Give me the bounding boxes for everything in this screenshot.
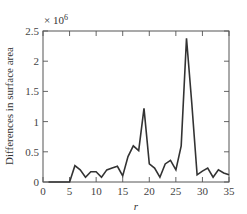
x-tick-label: 0 — [40, 185, 46, 197]
y-axis-title: Differences in surface area — [3, 47, 15, 165]
y-tick-label: 1.5 — [25, 85, 39, 97]
x-axis-title: r — [134, 200, 139, 212]
y-tick-label: 1 — [34, 116, 40, 128]
y-tick-label: 0.5 — [25, 146, 39, 158]
x-tick-label: 15 — [117, 185, 129, 197]
axis-ticks — [43, 31, 229, 182]
x-tick-label: 35 — [224, 185, 236, 197]
line-chart: 0510152025303500.511.522.5 × 106 r Diffe… — [0, 0, 247, 214]
y-tick-label: 0 — [34, 176, 40, 188]
y-tick-label: 2.5 — [25, 25, 39, 37]
x-tick-label: 25 — [170, 185, 182, 197]
x-tick-label: 20 — [144, 185, 156, 197]
x-tick-label: 5 — [67, 185, 73, 197]
data-line — [48, 38, 229, 182]
plot-frame — [43, 31, 229, 182]
x-tick-label: 10 — [91, 185, 103, 197]
x-tick-label: 30 — [197, 185, 209, 197]
y-multiplier: × 106 — [44, 13, 68, 26]
y-tick-label: 2 — [34, 55, 40, 67]
